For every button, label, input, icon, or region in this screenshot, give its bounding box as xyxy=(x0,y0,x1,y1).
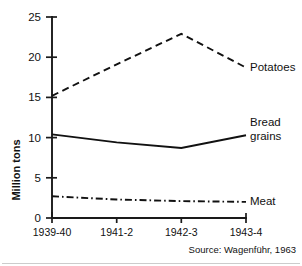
series-label-bread-grains-line2: grains xyxy=(250,130,282,142)
x-tick-label-1941-2: 1941-2 xyxy=(100,226,133,238)
x-tick-label-1942-3: 1942-3 xyxy=(165,226,198,238)
x-tick-label-1939-40: 1939-40 xyxy=(33,226,72,238)
line-chart-canvas: 0 5 10 15 20 25 1939-40 1941-2 1942-3 19… xyxy=(0,0,302,266)
chart-figure: 0 5 10 15 20 25 1939-40 1941-2 1942-3 19… xyxy=(0,0,302,266)
y-tick-label-0: 0 xyxy=(35,212,41,224)
y-tick-label-10: 10 xyxy=(28,132,41,144)
series-label-bread-grains-line1: Bread xyxy=(250,116,281,128)
y-tick-label-20: 20 xyxy=(28,51,41,63)
y-tick-label-5: 5 xyxy=(35,172,41,184)
y-axis-title: Million tons xyxy=(10,139,22,200)
series-label-meat: Meat xyxy=(250,195,276,207)
series-line-bread-grains xyxy=(52,134,246,148)
y-tick-label-15: 15 xyxy=(28,91,41,103)
series-line-potatoes xyxy=(52,34,246,96)
series-label-potatoes: Potatoes xyxy=(250,61,296,73)
source-note: Source: Wagenführ, 1963 xyxy=(189,244,296,255)
x-tick-label-1943-4: 1943-4 xyxy=(230,226,263,238)
series-line-meat xyxy=(52,196,246,202)
y-tick-label-25: 25 xyxy=(28,11,41,23)
